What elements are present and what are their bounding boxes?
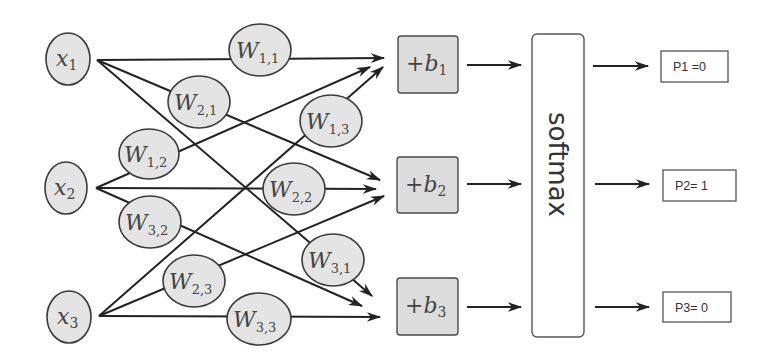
weight-node-w13: W1,3 bbox=[300, 95, 362, 147]
softmax-box: softmax bbox=[532, 34, 584, 337]
softmax-network-diagram: x1 x2 x3 W1,1 W2,1 W1,2 W1,3 W2,2 W3,2 W… bbox=[0, 0, 778, 364]
edge-x2-b2 bbox=[96, 188, 376, 189]
weight-node-w11: W1,1 bbox=[229, 24, 291, 76]
weight-node-w22: W2,2 bbox=[263, 163, 325, 215]
output-box-p3: P3= 0 bbox=[663, 292, 731, 322]
output-box-p1: P1 =0 bbox=[661, 51, 728, 82]
weight-node-w33: W3,3 bbox=[227, 293, 291, 345]
weight-node-w12: W1,2 bbox=[119, 129, 179, 179]
weight-node-w23: W2,3 bbox=[163, 255, 225, 307]
weight-node-w32: W3,2 bbox=[119, 196, 181, 248]
svg-text:P3= 0: P3= 0 bbox=[675, 301, 708, 315]
output-box-p2: P2= 1 bbox=[663, 170, 736, 201]
input-node-x3: x3 bbox=[47, 291, 91, 343]
svg-text:P2= 1: P2= 1 bbox=[675, 179, 708, 193]
bias-box-b3: +b3 bbox=[397, 278, 458, 335]
weight-node-w31: W3,1 bbox=[302, 234, 364, 286]
input-node-x2: x2 bbox=[45, 162, 87, 214]
bias-box-b2: +b2 bbox=[397, 157, 458, 213]
bias-to-softmax-arrows bbox=[467, 65, 521, 307]
softmax-label: softmax bbox=[543, 112, 573, 217]
input-node-x1: x1 bbox=[46, 33, 90, 85]
softmax-to-output-arrows bbox=[593, 66, 649, 307]
weight-node-w21: W2,1 bbox=[168, 76, 230, 128]
bias-box-b1: +b1 bbox=[398, 36, 458, 93]
svg-text:P1 =0: P1 =0 bbox=[673, 60, 706, 74]
